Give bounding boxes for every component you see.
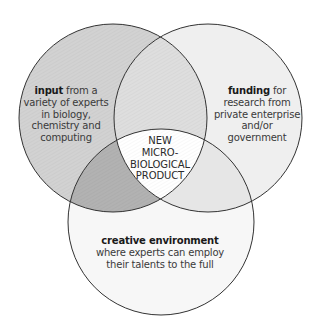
label-input: input from a variety of experts in biolo…: [20, 85, 112, 144]
label-funding-title: funding: [228, 85, 270, 96]
label-creative-line-1: their talents to the full: [80, 259, 240, 271]
label-center-line-2: BIOLOGICAL: [115, 159, 205, 171]
label-input-line-4: computing: [20, 132, 112, 144]
label-funding-line-1: research from: [205, 97, 309, 109]
label-creative-title: creative environment: [101, 235, 218, 246]
label-center-line-0: NEW: [115, 135, 205, 147]
label-input-line-2: in biology,: [20, 109, 112, 121]
label-funding-line-3: and/or: [205, 120, 309, 132]
label-funding: funding for research from private enterp…: [205, 85, 309, 144]
label-funding-line-2: private enterprise: [205, 109, 309, 121]
label-creative: creative environment where experts can e…: [80, 235, 240, 270]
label-center-line-1: MICRO-: [115, 147, 205, 159]
label-input-line-3: chemistry and: [20, 120, 112, 132]
label-creative-line-0: where experts can employ: [80, 247, 240, 259]
label-input-line-0: from a: [66, 85, 97, 96]
label-input-line-1: variety of experts: [20, 97, 112, 109]
label-center: NEW MICRO- BIOLOGICAL PRODUCT: [115, 135, 205, 182]
label-funding-line-4: government: [205, 132, 309, 144]
label-funding-line-0: for: [273, 85, 286, 96]
label-input-title: input: [35, 85, 64, 96]
label-center-line-3: PRODUCT: [115, 170, 205, 182]
